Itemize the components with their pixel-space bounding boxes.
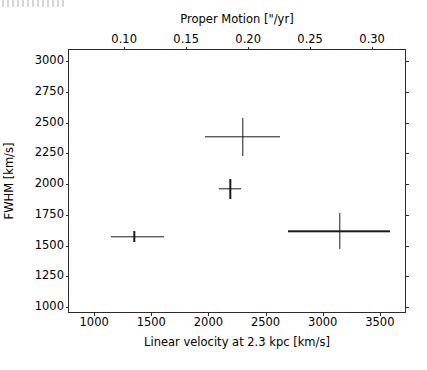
y-tick-mark xyxy=(66,61,70,62)
x-tick-label: 1000 xyxy=(80,317,109,329)
top-x-tick-mark xyxy=(372,47,373,51)
y-tick-mark xyxy=(66,246,70,247)
x-error-bar xyxy=(111,236,164,237)
top-x-tick-label: 0.15 xyxy=(173,34,199,46)
y-tick-mark xyxy=(405,246,409,247)
top-x-tick-mark xyxy=(186,47,187,51)
y-error-bar xyxy=(242,118,243,156)
plot-area xyxy=(69,50,405,312)
y-tick-mark xyxy=(66,307,70,308)
y-error-bar xyxy=(339,213,340,249)
y-tick-mark xyxy=(405,153,409,154)
y-tick-mark xyxy=(66,184,70,185)
top-x-tick-label: 0.30 xyxy=(359,34,385,46)
top-x-tick-label: 0.25 xyxy=(297,34,323,46)
y-tick-mark xyxy=(405,61,409,62)
x-axis-title: Linear velocity at 2.3 kpc [km/s] xyxy=(68,337,406,349)
y-tick-label: 1000 xyxy=(35,301,64,313)
y-tick-label: 1250 xyxy=(35,271,64,283)
top-x-tick-label: 0.20 xyxy=(235,34,261,46)
plot-axes: 1000125015001750200022502500275030001000… xyxy=(68,49,406,313)
top-x-tick-mark xyxy=(124,47,125,51)
y-error-bar xyxy=(133,231,134,242)
y-tick-label: 2250 xyxy=(35,148,64,160)
top-edge-artifact xyxy=(2,0,64,7)
x-tick-label: 2500 xyxy=(251,317,280,329)
y-tick-label: 2000 xyxy=(35,178,64,190)
y-tick-mark xyxy=(405,123,409,124)
y-tick-mark xyxy=(405,307,409,308)
x-tick-label: 3000 xyxy=(308,317,337,329)
y-error-bar xyxy=(229,179,230,199)
x-tick-label: 3500 xyxy=(365,317,394,329)
top-x-tick-mark xyxy=(248,47,249,51)
y-tick-mark xyxy=(66,123,70,124)
y-tick-mark xyxy=(66,92,70,93)
y-axis-title: FWHM [km/s] xyxy=(4,49,19,313)
y-tick-mark xyxy=(66,153,70,154)
y-tick-mark xyxy=(66,215,70,216)
x-tick-label: 1500 xyxy=(137,317,166,329)
y-tick-label: 3000 xyxy=(35,55,64,67)
y-tick-mark xyxy=(405,92,409,93)
x-tick-label: 2000 xyxy=(194,317,223,329)
y-tick-mark xyxy=(405,276,409,277)
y-tick-mark xyxy=(405,184,409,185)
top-x-tick-mark xyxy=(310,47,311,51)
top-axis-title: Proper Motion ["/yr] xyxy=(68,14,406,26)
y-tick-label: 1500 xyxy=(35,240,64,252)
y-tick-label: 1750 xyxy=(35,209,64,221)
top-x-tick-label: 0.10 xyxy=(111,34,137,46)
y-tick-label: 2750 xyxy=(35,86,64,98)
y-tick-mark xyxy=(405,215,409,216)
y-tick-mark xyxy=(66,276,70,277)
y-tick-label: 2500 xyxy=(35,117,64,129)
figure-canvas: Proper Motion ["/yr] FWHM [km/s] 1000125… xyxy=(0,0,427,370)
